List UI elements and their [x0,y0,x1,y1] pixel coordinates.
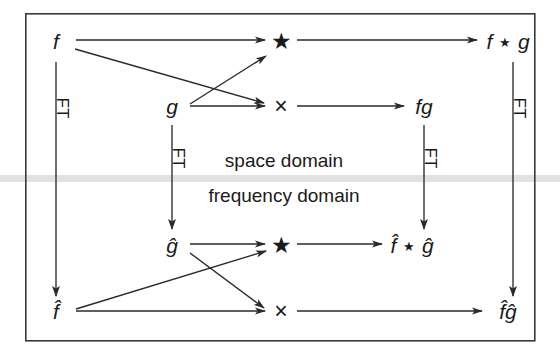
ft-label-fg: FT [422,148,439,169]
ft-label-f-conv-g: FT [511,98,528,119]
node-g: g [166,96,178,117]
node-f: f [53,31,59,52]
node-ghat: ĝ [166,235,178,256]
diagram-frame [26,14,535,341]
node-fhat: f̂ [53,301,59,322]
node-fhat-conv-ghat: f̂ ★ ĝ [390,235,433,256]
node-f-conv-g: f ★ g [486,31,529,52]
convolution-star-icon: ★ [498,36,512,49]
convolution-operator-bottom: ★ [271,234,292,257]
space-domain-label: space domain [225,151,343,170]
frequency-domain-label: frequency domain [208,186,359,205]
ft-label-g: FT [170,148,187,169]
edge-g-to-convolution [190,56,266,104]
node-fhat-ghat: f̂ĝ [499,301,517,322]
edge-ghat-to-multiplication [190,253,264,308]
convolution-operator-top: ★ [271,30,292,53]
edge-fhat-to-convolution [76,251,266,309]
multiplication-operator-top: × [274,95,287,118]
multiplication-operator-bottom: × [274,300,287,323]
convolution-star-icon: ★ [402,240,416,253]
node-fg: fg [415,96,433,117]
convolution-theorem-diagram: f g ★ × fg f ★ g ĝ f̂ ★ × f̂ ★ ĝ f̂ĝ FT … [0,0,560,354]
ft-label-f: FT [54,98,71,119]
